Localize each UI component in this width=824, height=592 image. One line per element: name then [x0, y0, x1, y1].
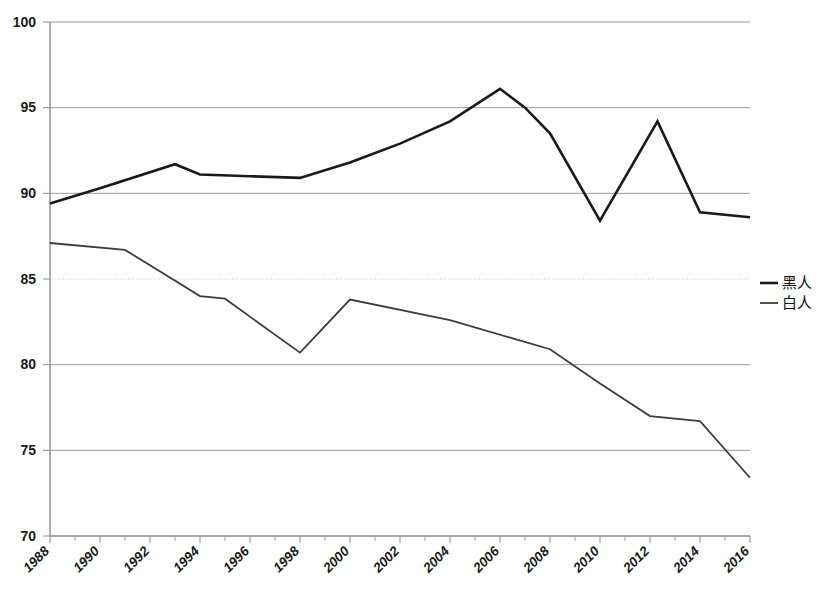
x-tick-label: 2000 [320, 543, 353, 576]
x-tick-label: 2012 [620, 543, 653, 576]
y-tick-label: 100 [13, 14, 37, 30]
legend-label-0: 黑人 [782, 274, 812, 291]
x-tick-label: 2006 [470, 543, 503, 576]
y-tick-label: 75 [20, 442, 36, 458]
chart-canvas: 1988199019921994199619982000200220042006… [0, 0, 824, 592]
x-tick-label: 2014 [670, 543, 703, 576]
series-group [50, 89, 750, 478]
x-tick-label: 1996 [220, 543, 252, 575]
x-tick-label: 2004 [420, 543, 453, 576]
x-tick-label: 1998 [270, 543, 302, 575]
y-tick-label: 90 [20, 185, 36, 201]
x-tick-label: 1988 [20, 543, 52, 575]
x-tick-label: 1992 [120, 543, 152, 575]
y-tick-label: 85 [20, 271, 36, 287]
legend-label-1: 白人 [782, 294, 812, 311]
x-tick-group [50, 536, 750, 543]
x-tick-label: 2016 [720, 543, 753, 576]
x-tick-label: 2008 [520, 543, 553, 576]
legend: 黑人白人 [760, 274, 812, 311]
y-tick-labels-group: 707580859095100 [13, 14, 37, 544]
y-tick-label: 95 [20, 99, 36, 115]
y-tick-label: 70 [20, 528, 36, 544]
x-tick-label: 1994 [170, 543, 202, 575]
y-tick-group [43, 22, 50, 536]
y-tick-label: 80 [20, 356, 36, 372]
series-line-1 [50, 243, 750, 478]
series-line-0 [50, 89, 750, 221]
x-tick-label: 1990 [70, 543, 102, 575]
gridlines-group [50, 22, 750, 450]
x-tick-label: 2002 [370, 543, 403, 576]
x-tick-labels-group: 1988199019921994199619982000200220042006… [20, 543, 752, 576]
x-tick-label: 2010 [570, 543, 603, 576]
line-chart: 1988199019921994199619982000200220042006… [0, 0, 824, 592]
